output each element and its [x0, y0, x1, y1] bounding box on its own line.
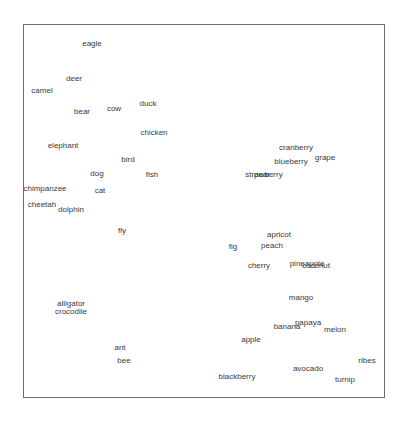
point-label: blackberry [219, 373, 256, 381]
point-label: bee [117, 357, 130, 365]
point-label: ribes [358, 357, 375, 365]
point-label: peach [261, 242, 283, 250]
point-label: apricot [267, 231, 291, 239]
point-label: fig [229, 243, 237, 251]
point-label: apple [241, 336, 261, 344]
point-label: banana [274, 323, 301, 331]
point-label: melon [324, 326, 346, 334]
point-label: elephant [48, 142, 79, 150]
point-label: eagle [82, 40, 102, 48]
point-label: grape [315, 154, 335, 162]
point-label: cherry [248, 262, 270, 270]
point-label: camel [31, 87, 52, 95]
point-label: crocodile [55, 308, 87, 316]
point-label: blueberry [274, 158, 307, 166]
point-label: dog [90, 170, 103, 178]
point-label: cat [95, 187, 106, 195]
point-label: fly [118, 227, 126, 235]
point-label: fish [146, 171, 158, 179]
point-label: duck [140, 100, 157, 108]
point-label: avocado [293, 365, 323, 373]
point-label: dolphin [58, 206, 84, 214]
point-label: ant [114, 344, 125, 352]
point-label: bird [121, 156, 134, 164]
point-label: pear [254, 171, 270, 179]
point-label: cranberry [279, 144, 313, 152]
point-label: chicken [140, 129, 167, 137]
point-label: bear [74, 108, 90, 116]
point-label: chimpanzee [23, 185, 66, 193]
scatter-labels: eagledeercamelbearcowduckchickenelephant… [0, 0, 407, 423]
point-label: cow [107, 105, 121, 113]
point-label: cheetah [28, 201, 56, 209]
point-label: turnip [335, 376, 355, 384]
point-label: coconut [302, 262, 330, 270]
point-label: deer [66, 75, 82, 83]
point-label: mango [289, 294, 313, 302]
